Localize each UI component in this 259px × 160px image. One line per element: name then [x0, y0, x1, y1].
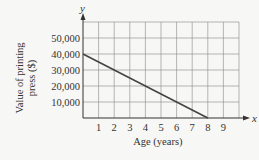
- grid: [83, 22, 239, 118]
- axes: [81, 13, 251, 121]
- x-tick-label: 1: [96, 122, 101, 133]
- y-axis-arrow-icon: [81, 13, 86, 20]
- tick-labels: xy12345678910,00020,00030,00040,00050,00…: [51, 2, 257, 148]
- x-tick-label: 7: [190, 122, 195, 133]
- x-tick-label: 8: [205, 122, 210, 133]
- x-axis-arrow-icon: [243, 116, 250, 121]
- y-tick-label: 50,000: [51, 33, 80, 44]
- x-tick-label: 4: [143, 122, 149, 133]
- y-tick-label: 30,000: [51, 65, 80, 76]
- y-tick-label: 10,000: [51, 97, 80, 108]
- y-axis-label-line1: Value of printing: [14, 42, 26, 113]
- x-tick-label: 2: [112, 122, 117, 133]
- y-axis-label-line2: press ($): [26, 42, 38, 113]
- y-tick-label: 40,000: [51, 49, 80, 60]
- y-tick-label: 20,000: [51, 81, 80, 92]
- x-tick-label: 6: [174, 122, 179, 133]
- y-axis-label: Value of printing press ($): [14, 42, 38, 113]
- x-tick-label: 9: [221, 122, 226, 133]
- x-tick-label: 3: [127, 122, 132, 133]
- line-chart: xy12345678910,00020,00030,00040,00050,00…: [0, 0, 259, 160]
- x-axis-symbol: x: [251, 112, 257, 124]
- y-axis-symbol: y: [79, 2, 85, 14]
- x-axis-label: Age (years): [133, 136, 183, 148]
- x-tick-label: 5: [158, 122, 163, 133]
